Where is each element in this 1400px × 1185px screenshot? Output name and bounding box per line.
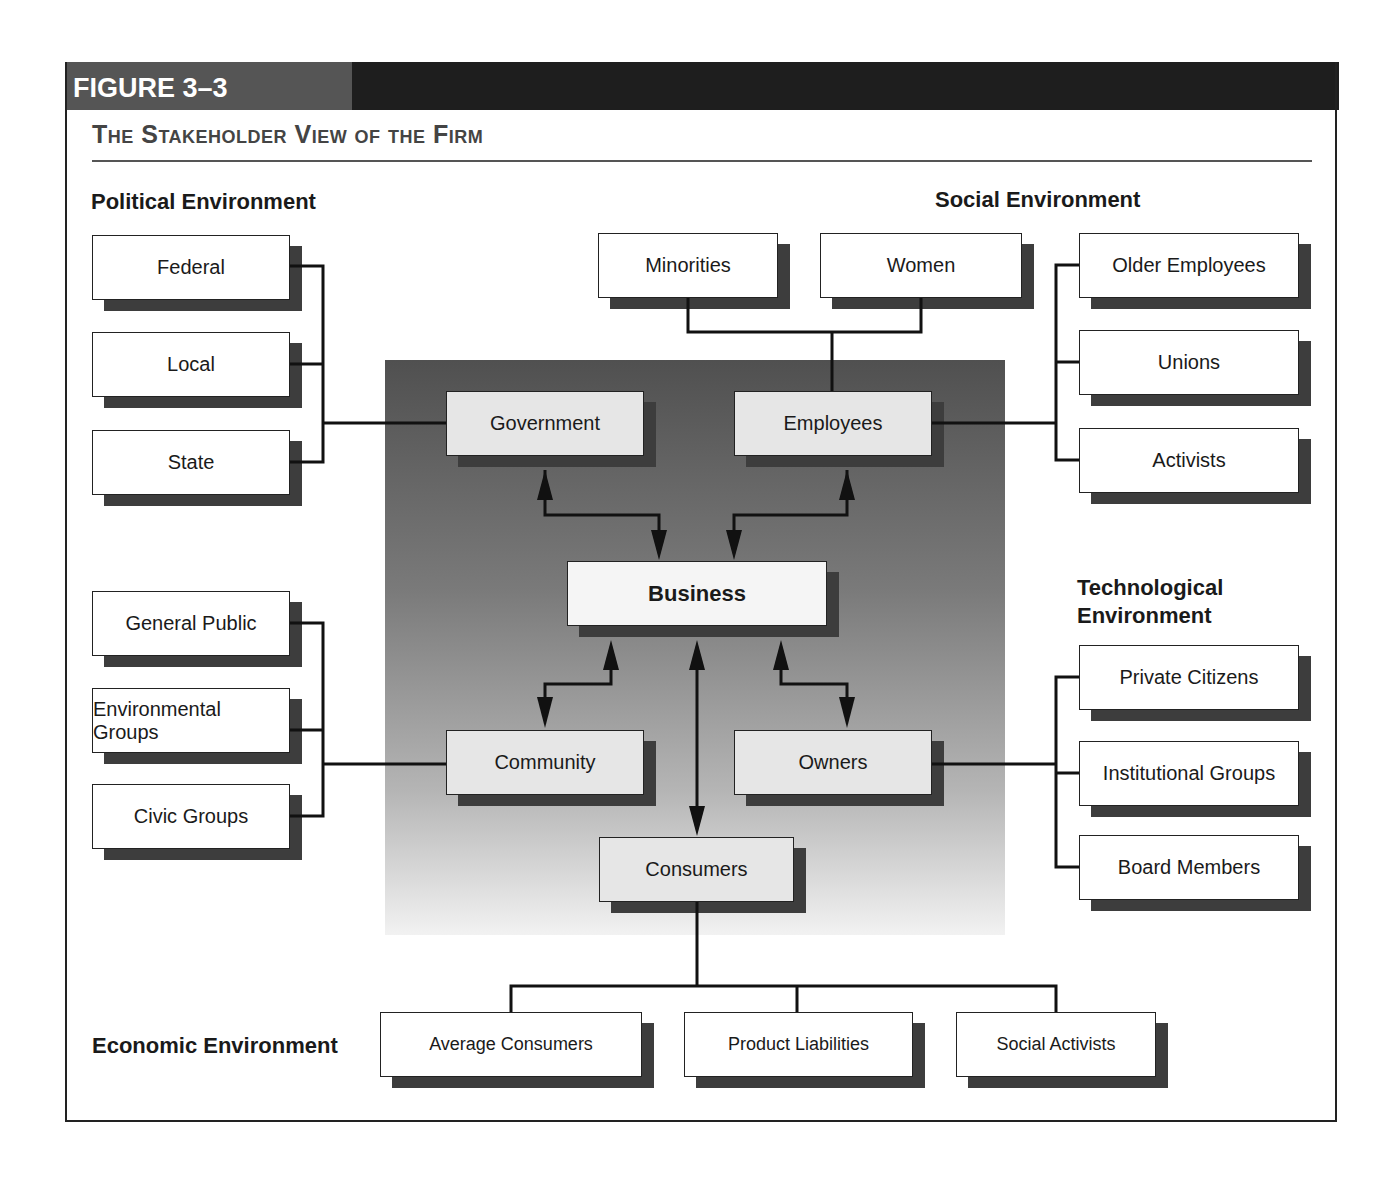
social-environment-label: Social Environment [935,186,1140,214]
node-institutional-groups: Institutional Groups [1079,741,1299,806]
node-women: Women [820,233,1022,298]
node-community: Community [446,730,644,795]
node-product-liabilities: Product Liabilities [684,1012,913,1077]
node-employees: Employees [734,391,932,456]
economic-environment-label: Economic Environment [92,1032,338,1060]
node-federal: Federal [92,235,290,300]
technological-environment-label: Technological Environment [1077,574,1247,630]
node-environmental-groups: Environmental Groups [92,688,290,753]
node-older-employees: Older Employees [1079,233,1299,298]
node-average-consumers: Average Consumers [380,1012,642,1077]
node-state: State [92,430,290,495]
node-private-citizens: Private Citizens [1079,645,1299,710]
node-owners: Owners [734,730,932,795]
node-board-members: Board Members [1079,835,1299,900]
node-unions: Unions [1079,330,1299,395]
node-government: Government [446,391,644,456]
node-minorities: Minorities [598,233,778,298]
title-divider [92,160,1312,162]
political-environment-label: Political Environment [91,188,316,216]
node-activists: Activists [1079,428,1299,493]
figure-title: The Stakeholder View of the Firm [92,120,483,149]
node-consumers: Consumers [599,837,794,902]
node-general-public: General Public [92,591,290,656]
node-social-activists: Social Activists [956,1012,1156,1077]
node-civic-groups: Civic Groups [92,784,290,849]
node-local: Local [92,332,290,397]
node-business: Business [567,561,827,626]
